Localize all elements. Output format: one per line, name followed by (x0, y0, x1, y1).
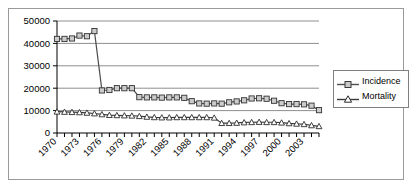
y-axis-tick-label: 50000 (24, 15, 50, 26)
x-axis-tick-label: 1985 (148, 136, 171, 159)
data-point-incidence (77, 33, 82, 38)
data-point-incidence (69, 36, 74, 41)
legend-label-incidence: Incidence (362, 76, 401, 87)
chart-outer-frame: 0100002000030000400005000019701973197619… (8, 8, 404, 180)
data-point-incidence (316, 108, 321, 113)
y-axis-tick-label: 20000 (24, 83, 50, 94)
legend-marker-square-icon (337, 76, 359, 87)
data-point-incidence (114, 86, 119, 91)
data-point-incidence (286, 102, 291, 107)
data-point-incidence (234, 99, 239, 104)
data-point-incidence (152, 95, 157, 100)
data-point-incidence (242, 98, 247, 103)
legend-item-incidence: Incidence (337, 74, 405, 89)
x-axis-tick-label: 1997 (238, 136, 261, 159)
x-axis-tick-label: 2003 (283, 136, 306, 159)
x-axis-tick-label: 1982 (126, 136, 149, 159)
data-point-incidence (92, 28, 97, 33)
data-point-incidence (99, 88, 104, 93)
data-point-incidence (174, 95, 179, 100)
legend-label-mortality: Mortality (362, 91, 396, 102)
data-point-incidence (107, 87, 112, 92)
data-point-incidence (197, 101, 202, 106)
data-point-incidence (219, 101, 224, 106)
y-axis-tick-label: 30000 (24, 60, 50, 71)
x-axis-tick-label: 1973 (58, 136, 81, 159)
data-point-incidence (249, 96, 254, 101)
x-axis-tick-label: 1976 (81, 136, 104, 159)
data-point-incidence (189, 99, 194, 104)
data-point-incidence (271, 98, 276, 103)
data-point-incidence (212, 101, 217, 106)
data-point-incidence (309, 103, 314, 108)
data-point-incidence (54, 36, 59, 41)
x-axis-tick-label: 1988 (170, 136, 193, 159)
data-point-incidence (159, 95, 164, 100)
data-point-incidence (84, 34, 89, 39)
legend-marker-triangle-icon (337, 91, 359, 102)
data-point-incidence (129, 86, 134, 91)
data-point-incidence (122, 86, 127, 91)
chart-figure: 0100002000030000400005000019701973197619… (0, 0, 414, 194)
data-point-incidence (167, 95, 172, 100)
data-point-incidence (62, 36, 67, 41)
data-point-incidence (294, 102, 299, 107)
data-point-incidence (182, 95, 187, 100)
data-point-incidence (137, 95, 142, 100)
data-point-incidence (301, 102, 306, 107)
y-axis-tick-label: 10000 (24, 105, 50, 116)
data-point-incidence (144, 95, 149, 100)
x-axis-tick-label: 1994 (215, 136, 238, 159)
x-axis-tick-label: 1970 (36, 136, 59, 159)
y-axis-tick-label: 40000 (24, 38, 50, 49)
data-point-incidence (279, 101, 284, 106)
x-axis-tick-label: 2000 (260, 136, 283, 159)
data-point-incidence (264, 96, 269, 101)
data-point-incidence (257, 96, 262, 101)
x-axis-tick-label: 1979 (103, 136, 126, 159)
x-axis-tick-label: 1991 (193, 136, 216, 159)
data-point-incidence (204, 101, 209, 106)
legend-item-mortality: Mortality (337, 89, 405, 104)
data-point-incidence (227, 100, 232, 105)
chart-legend: Incidence Mortality (333, 70, 409, 108)
